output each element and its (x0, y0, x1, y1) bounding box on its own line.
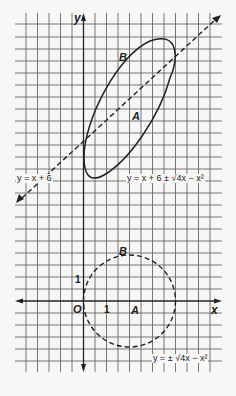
y-axis-arrow-down-icon (81, 364, 86, 372)
grid (15, 13, 222, 372)
y-axis-label: y (74, 12, 81, 24)
region-label-a-bottom: A (131, 305, 139, 316)
region-label-a-top: A (132, 111, 140, 122)
region-label-b-bottom: B (119, 246, 127, 257)
grid-vertical-lines (26, 13, 210, 372)
ellipse-equation-label: y = x + 6 ± √4x − x² (126, 174, 205, 183)
x-axis-label: x (211, 304, 218, 316)
x-tick-label-1: 1 (104, 305, 110, 315)
x-axis-arrow-left-icon (15, 299, 23, 304)
region-label-b-top: B (119, 52, 127, 63)
graph-canvas (0, 0, 236, 396)
line-equation-label: y = x + 6 (16, 174, 53, 183)
y-tick-label-1: 1 (75, 275, 81, 285)
line-arrow-down-icon (16, 194, 24, 203)
axes (15, 13, 222, 372)
origin-label: O (73, 304, 82, 315)
y-axis-arrow-up-icon (81, 13, 86, 21)
circle-equation-label: y = ± √4x − x² (152, 354, 208, 363)
grid-horizontal-lines (15, 24, 222, 361)
